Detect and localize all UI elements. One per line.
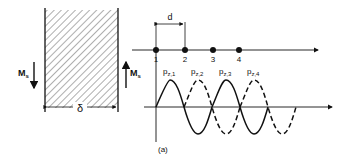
lattice-point-2 [182,47,188,53]
left-moment-label: Ms [18,68,30,79]
lattice-point-label-2: 2 [183,55,188,64]
lattice-point-label-3: 3 [211,55,216,64]
slab-hatching [45,10,118,108]
left-moment: Ms [18,62,34,88]
figure-caption: (a) [158,145,168,154]
orbital-label-2: pz,2 [191,67,204,77]
orbital-label-3: pz,3 [219,67,232,77]
wave-plot: pz,1 pz,2 pz,3 pz,4 (a) [144,50,332,154]
slab: δ [45,8,118,114]
orbital-label-4: pz,4 [247,67,260,77]
right-moment-label: Ms [130,68,142,79]
thickness-label: δ [77,102,83,114]
spacing-label: d [167,12,172,22]
lattice-point-3 [210,47,216,53]
orbital-label-1: pz,1 [163,67,176,77]
lattice-point-label-4: 4 [237,55,242,64]
right-moment: Ms [126,62,142,88]
lattice-point-4 [236,47,242,53]
diagram-canvas: δ Ms Ms d 1 2 3 4 pz,1 pz,2 [0,0,347,163]
lattice-axis: d 1 2 3 4 [132,12,318,64]
